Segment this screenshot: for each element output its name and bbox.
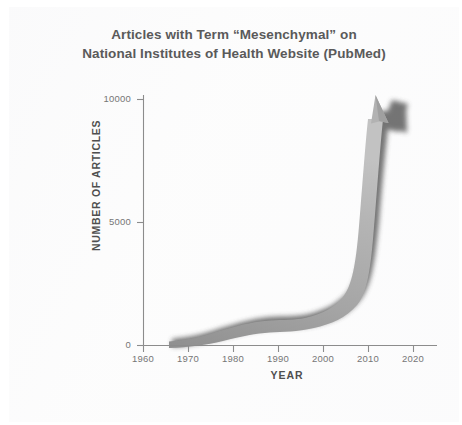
x-tick-label-1960: 1960: [121, 353, 165, 364]
plot-area: 10000 5000 0 1960 1970 1980 1990 2000 20…: [9, 7, 459, 422]
x-tick-label-1980: 1980: [211, 353, 255, 364]
y-axis-label: NUMBER OF ARTICLES: [90, 120, 102, 251]
x-tick-label-2020: 2020: [391, 353, 435, 364]
x-tick-label-2000: 2000: [301, 353, 345, 364]
x-tick-label-1990: 1990: [256, 353, 300, 364]
x-tick-label-1970: 1970: [166, 353, 210, 364]
chart-paper: Articles with Term “Mesenchymal” on Nati…: [9, 7, 459, 422]
x-axis-label: YEAR: [187, 369, 387, 381]
chart-figure: Articles with Term “Mesenchymal” on Nati…: [0, 0, 462, 425]
y-tick-label-0: 0: [87, 339, 131, 350]
y-axis-ticks: [137, 100, 144, 346]
x-tick-label-2010: 2010: [346, 353, 390, 364]
axis-lines: [144, 95, 438, 346]
data-curve: [169, 95, 389, 348]
y-tick-label-10000: 10000: [87, 93, 131, 104]
